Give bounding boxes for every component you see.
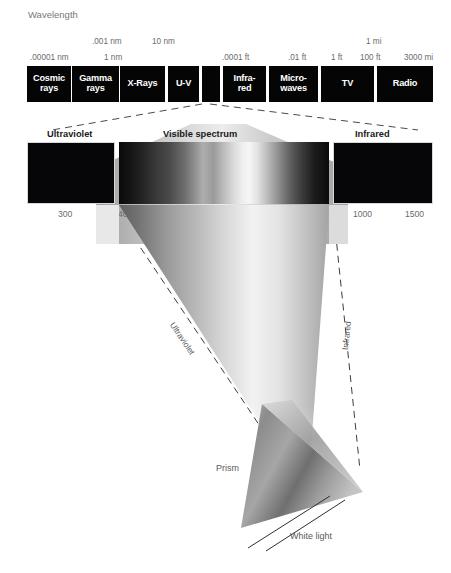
spectrum-figure: Wavelength .001 nm10 nm 1 mi .00001 nm1 …	[0, 0, 451, 573]
white-light-label: White light	[290, 531, 332, 541]
prism-label: Prism	[216, 463, 239, 473]
prism-graphic	[0, 0, 451, 573]
